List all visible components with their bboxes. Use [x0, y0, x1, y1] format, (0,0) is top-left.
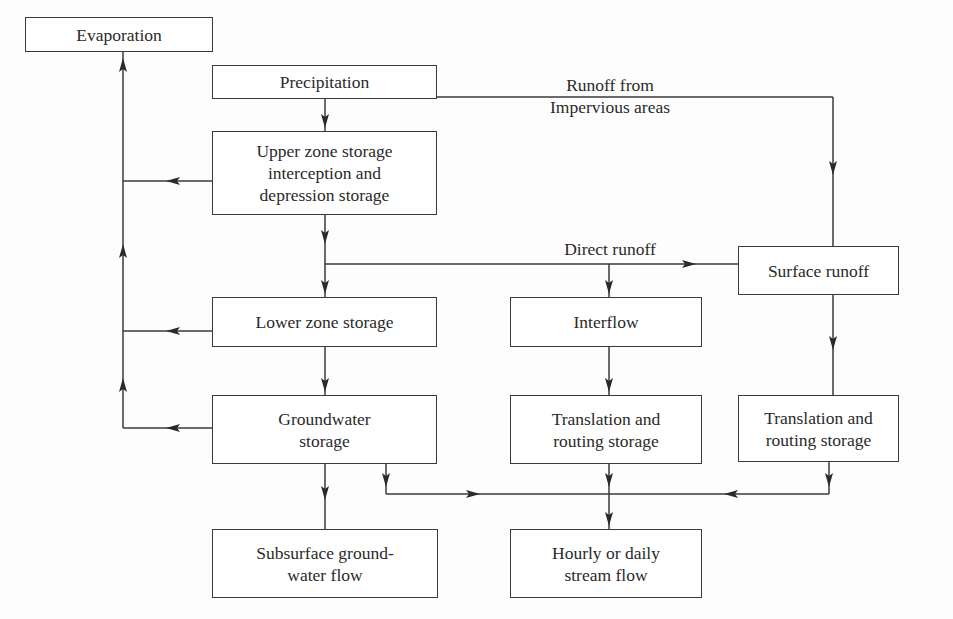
- node-surface-runoff-label: Surface runoff: [768, 260, 869, 282]
- node-upper-zone-storage: Upper zone storage interception and depr…: [212, 131, 437, 215]
- node-translation-routing-storage-mid-label: Translation and routing storage: [552, 408, 661, 452]
- node-interflow-label: Interflow: [573, 311, 638, 333]
- node-evaporation-label: Evaporation: [76, 24, 162, 46]
- connector-lines: [0, 0, 953, 619]
- node-precipitation-label: Precipitation: [280, 71, 369, 93]
- node-upper-zone-storage-label: Upper zone storage interception and depr…: [256, 140, 392, 206]
- hydrologic-model-flowchart: Evaporation Precipitation Upper zone sto…: [0, 0, 953, 619]
- node-hourly-daily-stream-flow: Hourly or daily stream flow: [510, 529, 702, 598]
- node-lower-zone-storage-label: Lower zone storage: [256, 311, 394, 333]
- node-subsurface-groundwater-flow: Subsurface ground- water flow: [212, 529, 438, 598]
- node-precipitation: Precipitation: [212, 65, 437, 99]
- node-groundwater-storage: Groundwater storage: [212, 395, 437, 464]
- node-hourly-daily-stream-flow-label: Hourly or daily stream flow: [552, 542, 660, 586]
- node-lower-zone-storage: Lower zone storage: [212, 297, 437, 347]
- edge-label-impervious-runoff: Runoff from Impervious areas: [520, 74, 700, 118]
- node-translation-routing-storage-right-label: Translation and routing storage: [764, 407, 873, 451]
- node-translation-routing-storage-right: Translation and routing storage: [738, 395, 899, 462]
- node-groundwater-storage-label: Groundwater storage: [278, 408, 370, 452]
- node-subsurface-groundwater-flow-label: Subsurface ground- water flow: [256, 542, 394, 586]
- node-surface-runoff: Surface runoff: [738, 246, 899, 295]
- edge-label-direct-runoff: Direct runoff: [520, 238, 700, 260]
- node-translation-routing-storage-mid: Translation and routing storage: [510, 395, 702, 464]
- node-evaporation: Evaporation: [25, 17, 213, 52]
- node-interflow: Interflow: [510, 297, 702, 347]
